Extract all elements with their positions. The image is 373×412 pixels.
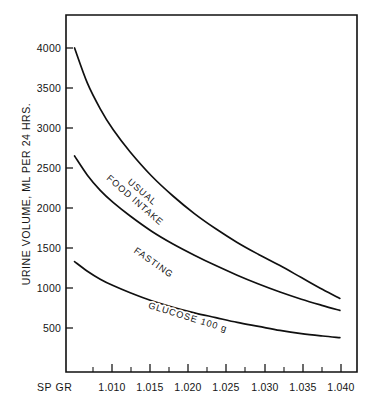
y-axis-title: URINE VOLUME, ML PER 24 HRS. <box>20 103 32 285</box>
y-tick-label: 500 <box>43 322 61 334</box>
y-tick-label: 1000 <box>37 282 61 294</box>
y-tick-label: 1500 <box>37 242 61 254</box>
chart-figure: 4000 3500 3000 2500 2000 1500 1000 500 U… <box>0 0 373 412</box>
y-tick-label: 2500 <box>37 162 61 174</box>
x-tick-label: 1.040 <box>327 381 354 393</box>
y-tick-label: 3500 <box>37 82 61 94</box>
x-tick-label: 1.035 <box>289 381 316 393</box>
x-tick-label: 1.015 <box>136 381 163 393</box>
x-axis-tick-labels: 1.010 1.015 1.020 1.025 1.030 1.035 1.04… <box>98 381 354 393</box>
x-tick-label: 1.020 <box>174 381 201 393</box>
y-tick-label: 4000 <box>37 42 61 54</box>
x-tick-label: 1.025 <box>212 381 239 393</box>
x-tick-label: 1.010 <box>98 381 125 393</box>
y-tick-label: 3000 <box>37 122 61 134</box>
y-tick-label: 2000 <box>37 202 61 214</box>
x-axis-corner-label: SP GR <box>37 381 72 393</box>
x-tick-label: 1.030 <box>251 381 278 393</box>
urine-volume-chart: 4000 3500 3000 2500 2000 1500 1000 500 U… <box>0 0 373 412</box>
